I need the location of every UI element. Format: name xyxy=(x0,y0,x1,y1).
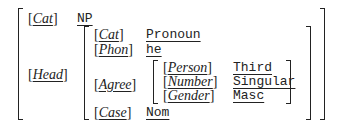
head-bracket-right xyxy=(306,26,311,120)
value-third: Third xyxy=(233,61,272,75)
outer-bracket-right xyxy=(320,8,325,120)
agree-bracket-left xyxy=(153,60,158,104)
feature-agree: [Agree] xyxy=(94,78,136,92)
value-masc: Masc xyxy=(233,89,264,103)
feature-phon: [Phon] xyxy=(94,43,133,57)
head-bracket-left xyxy=(84,26,89,120)
value-pronoun: Pronoun xyxy=(146,28,201,42)
value-singular: Singular xyxy=(233,75,295,89)
value-nom: Nom xyxy=(146,106,169,120)
feature-gender: [Gender] xyxy=(163,89,214,103)
value-he: he xyxy=(146,43,162,57)
feature-number: [Number] xyxy=(163,75,217,89)
value-np: NP xyxy=(77,12,93,26)
feature-person: [Person] xyxy=(163,61,212,75)
feature-cat: [Cat] xyxy=(28,12,58,26)
feature-case: [Case] xyxy=(94,106,131,120)
outer-bracket-left xyxy=(18,8,23,120)
feature-head: [Head] xyxy=(28,68,68,82)
feature-head-cat: [Cat] xyxy=(94,28,124,42)
